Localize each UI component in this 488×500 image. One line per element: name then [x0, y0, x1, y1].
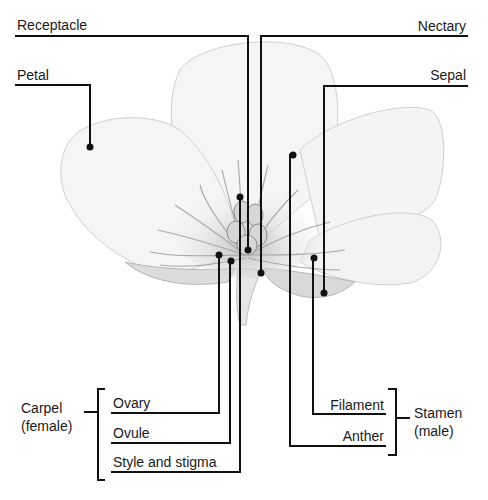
dot-petal — [87, 144, 94, 151]
label-nectary: Nectary — [418, 18, 466, 34]
dot-receptacle — [245, 247, 252, 254]
stamen-bracket — [388, 389, 396, 455]
label-petal: Petal — [17, 67, 49, 83]
label-receptacle: Receptacle — [17, 17, 87, 33]
label-filament: Filament — [330, 397, 384, 413]
carpel-sub: (female) — [21, 417, 72, 435]
flower-illustration — [61, 42, 444, 325]
group-label-carpel: Carpel (female) — [21, 399, 72, 435]
label-style-stigma: Style and stigma — [113, 454, 217, 470]
dot-ovary — [216, 252, 223, 259]
carpel-bracket — [98, 389, 105, 480]
dot-ovule — [228, 258, 235, 265]
label-sepal: Sepal — [430, 67, 466, 83]
label-ovule: Ovule — [113, 425, 150, 441]
dot-filament — [311, 255, 318, 262]
carpel-name: Carpel — [21, 399, 72, 417]
leader-ovule — [112, 261, 230, 443]
stamen-sub: (male) — [414, 422, 462, 440]
dot-sepal — [321, 290, 328, 297]
dot-style-stigma — [237, 194, 244, 201]
dot-nectary — [258, 270, 265, 277]
stamen-name: Stamen — [414, 404, 462, 422]
dot-anther — [290, 152, 297, 159]
label-ovary: Ovary — [113, 395, 150, 411]
label-anther: Anther — [343, 428, 384, 444]
group-label-stamen: Stamen (male) — [414, 404, 462, 440]
